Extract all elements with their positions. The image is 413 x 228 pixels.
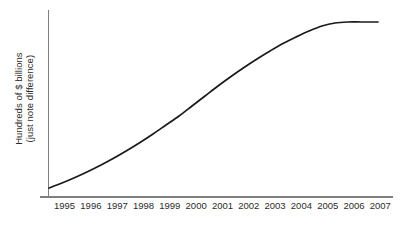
- line-series-growth: [49, 22, 378, 188]
- x-tick-label: 2004: [291, 199, 312, 212]
- x-tick-label: 1999: [159, 199, 180, 212]
- x-axis-tick-labels: 1995199619971998199920002001200220032004…: [48, 199, 393, 215]
- x-tick-label: 2005: [317, 199, 338, 212]
- x-tick-label: 2002: [238, 199, 259, 212]
- x-tick-label: 1998: [133, 199, 154, 212]
- x-tick-label: 2000: [186, 199, 207, 212]
- x-tick-label: 2001: [212, 199, 233, 212]
- chart-container: Hundreds of $ billions (just note differ…: [0, 0, 413, 228]
- x-tick-label: 2003: [265, 199, 286, 212]
- x-tick-label: 1997: [107, 199, 128, 212]
- x-tick-label: 1995: [54, 199, 75, 212]
- x-tick-label: 1996: [80, 199, 101, 212]
- x-tick-label: 2006: [343, 199, 364, 212]
- chart-plot-area: [0, 0, 413, 228]
- x-tick-label: 2007: [370, 199, 391, 212]
